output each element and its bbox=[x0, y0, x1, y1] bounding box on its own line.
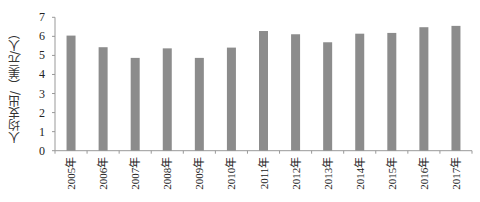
x-tick-label: 2009年 bbox=[192, 157, 205, 190]
x-tick-label: 2011年 bbox=[257, 157, 270, 190]
y-tick-label: 2 bbox=[39, 106, 45, 120]
y-tick-label: 3 bbox=[39, 87, 45, 101]
bar bbox=[387, 33, 396, 151]
y-tick-label: 6 bbox=[39, 29, 45, 43]
x-tick-label: 2007年 bbox=[128, 157, 141, 190]
x-tick-label: 2012年 bbox=[289, 157, 302, 190]
x-tick-label: 2010年 bbox=[224, 157, 237, 190]
plot-area: 012345672005年2006年2007年2008年2009年2010年20… bbox=[0, 0, 480, 202]
x-tick-label: 2005年 bbox=[64, 157, 77, 190]
y-tick-label: 5 bbox=[39, 48, 45, 62]
x-tick-label: 2015年 bbox=[385, 157, 398, 190]
bar bbox=[99, 47, 108, 150]
x-tick-label: 2006年 bbox=[96, 157, 109, 190]
bar bbox=[355, 34, 364, 151]
bar bbox=[419, 27, 428, 150]
y-tick-label: 0 bbox=[39, 144, 45, 158]
x-tick-label: 2014年 bbox=[353, 157, 366, 190]
x-tick-label: 2016年 bbox=[417, 157, 430, 190]
bar bbox=[67, 36, 76, 151]
bar bbox=[227, 48, 236, 151]
y-tick-label: 1 bbox=[39, 125, 45, 139]
bar bbox=[163, 48, 172, 150]
bar bbox=[323, 42, 332, 150]
bar bbox=[259, 31, 268, 151]
x-tick-label: 2008年 bbox=[160, 157, 173, 190]
y-tick-label: 7 bbox=[39, 10, 45, 24]
bar bbox=[195, 58, 204, 151]
y-tick-label: 4 bbox=[39, 67, 45, 81]
x-tick-label: 2013年 bbox=[321, 157, 334, 190]
bar bbox=[131, 58, 140, 151]
bar bbox=[291, 34, 300, 150]
x-tick-label: 2017年 bbox=[449, 157, 462, 190]
bar-chart: 人均支出/（美元/人） 012345672005年2006年2007年2008年… bbox=[0, 0, 480, 202]
bar bbox=[451, 26, 460, 151]
